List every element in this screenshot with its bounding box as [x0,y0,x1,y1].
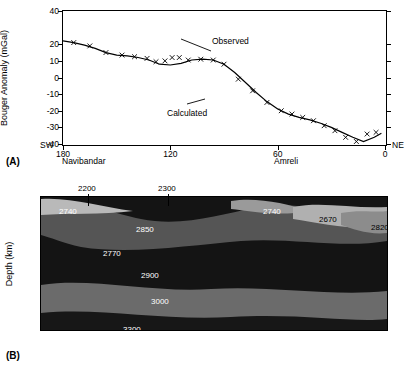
panel-a-tag: (A) [6,156,20,167]
panel-b-density-label: 3300 [123,325,141,331]
panel-b-density-label: 2770 [103,249,121,258]
observed-marker [279,108,284,113]
panel-b-density-label: 2850 [136,225,154,234]
observed-marker [374,130,379,135]
panel-a-x-tick-mark [63,145,64,150]
panel-b-density-label: 2300 [158,184,176,193]
observed-marker [354,139,359,144]
panel-a-place-navibandar: Navibandar [62,156,105,166]
panel-b-depth-tick-mark [40,230,41,231]
panel-b-density-model: Depth (km) 01020304027402850274026702820… [0,178,408,369]
panel-b-plot-area: 0102030402740285027402670282027702900300… [40,196,388,331]
panel-a-y-tick-mark [58,61,63,62]
panel-a-y-tick-mark-right [386,78,391,79]
panel-a-y-tick-mark-right [386,111,391,112]
panel-a-y-tick-mark-right [386,94,391,95]
panel-a-place-amreli: Amreli [274,156,298,166]
panel-b-depth-tick-mark [40,197,41,198]
panel-a-y-tick-mark [58,44,63,45]
panel-a-y-tick-mark-right [386,11,391,12]
panel-b-depth-tick-mark [40,264,41,265]
panel-a-x-tick-mark [170,145,171,150]
panel-a-ne-label: NE [392,140,404,150]
panel-b-density-label: 2900 [141,271,159,280]
panel-a-y-tick-mark [58,78,63,79]
panel-a-y-tick-mark [58,94,63,95]
calculated-leader-line [187,99,205,104]
panel-a-bouguer-anomaly: Bouger Anomaly (mGal) 4020100-10-20-30-4… [0,0,408,178]
panel-a-x-tick-mark [385,145,386,150]
observed-marker [170,55,175,60]
panel-a-y-tick-mark-right [386,127,391,128]
observed-leader-line [181,39,211,51]
panel-b-label-leader [168,194,169,206]
observed-marker [222,62,227,67]
panel-b-density-label: 2670 [319,215,337,224]
panel-a-annotation-observed: Observed [212,36,249,46]
panel-b-depth-tick-mark [40,297,41,298]
observed-marker [365,132,370,137]
panel-b-depth-tick-label: 40 [40,325,41,331]
panel-a-plot-area: 4020100-10-20-30-40180120600 [62,10,387,146]
panel-a-y-tick-mark [58,127,63,128]
calculated-curve [63,41,381,142]
observed-marker [236,77,241,82]
panel-a-y-tick-mark-right [386,61,391,62]
panel-a-curves [63,11,385,144]
figure-root: Bouger Anomaly (mGal) 4020100-10-20-30-4… [0,0,408,369]
observed-marker [177,55,182,60]
panel-a-y-axis-label: Bouger Anomaly (mGal) [0,30,9,126]
panel-b-y-axis-label: Depth (km) [4,242,14,287]
panel-b-density-label: 2820 [371,223,388,232]
panel-b-density-label: 2200 [78,184,96,193]
panel-a-x-tick-mark [278,145,279,150]
panel-a-y-tick-mark [58,111,63,112]
panel-a-y-tick-mark-right [386,44,391,45]
panel-b-label-leader [88,194,89,206]
panel-b-density-label: 3000 [151,297,169,306]
panel-a-annotation-calculated: Calculated [167,108,207,118]
panel-b-depth-tick-mark [40,330,41,331]
panel-b-density-label: 2740 [263,207,281,216]
panel-b-density-label: 2740 [59,207,77,216]
observed-marker [163,58,168,63]
panel-a-y-tick-mark [58,11,63,12]
panel-b-tag: (B) [6,350,20,361]
panel-a-sw-label: SW [40,140,54,150]
observed-marker [343,135,348,140]
